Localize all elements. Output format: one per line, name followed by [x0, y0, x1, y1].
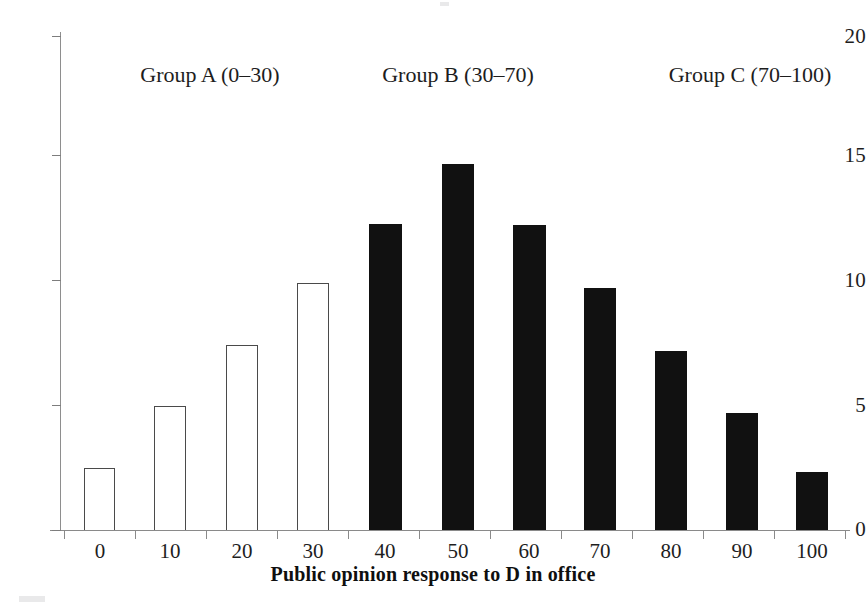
bar-80 — [655, 351, 687, 530]
x-axis-tick — [348, 531, 349, 539]
bar-70 — [584, 288, 616, 530]
x-axis-label-50: 50 — [428, 540, 488, 563]
y-axis-tick — [52, 36, 61, 37]
y-axis-line — [60, 32, 61, 531]
x-axis-title: Public opinion response to D in office — [0, 562, 866, 586]
scan-artifact — [440, 2, 449, 6]
y-axis-label-15: 15 — [822, 145, 866, 166]
x-axis-tick — [845, 531, 846, 539]
x-axis-tick — [419, 531, 420, 539]
x-axis-label-40: 40 — [355, 540, 415, 563]
bar-40 — [369, 224, 402, 530]
x-axis-label-20: 20 — [212, 540, 272, 563]
bar-30 — [297, 283, 329, 530]
bar-0 — [84, 468, 115, 530]
x-axis-label-60: 60 — [499, 540, 559, 563]
bar-10 — [154, 406, 186, 530]
y-axis-tick — [52, 405, 61, 406]
y-axis-tick — [52, 530, 61, 531]
x-axis-tick — [561, 531, 562, 539]
x-axis-label-90: 90 — [712, 540, 772, 563]
x-axis-label-70: 70 — [570, 540, 630, 563]
x-axis-tick — [632, 531, 633, 539]
x-axis-tick — [490, 531, 491, 539]
bar-90 — [726, 413, 758, 530]
x-axis-label-100: 100 — [782, 540, 842, 563]
x-axis-tick — [703, 531, 704, 539]
x-axis-tick — [206, 531, 207, 539]
y-axis-label-0: 0 — [822, 519, 866, 540]
y-axis-tick — [52, 155, 61, 156]
x-axis-line — [50, 530, 850, 531]
x-axis-tick — [135, 531, 136, 539]
bar-60 — [513, 225, 546, 530]
bar-50 — [442, 164, 474, 530]
y-axis-label-20: 20 — [822, 26, 866, 47]
bar-chart: 20 15 10 5 0 0 10 20 30 40 50 60 70 80 9… — [0, 0, 866, 607]
bar-20 — [226, 345, 258, 530]
y-axis-label-5: 5 — [822, 395, 866, 416]
x-axis-tick — [774, 531, 775, 539]
x-axis-tick — [64, 531, 65, 539]
group-label-b: Group B (30–70) — [348, 62, 568, 88]
x-axis-label-30: 30 — [283, 540, 343, 563]
bar-100 — [796, 472, 828, 530]
x-axis-label-10: 10 — [140, 540, 200, 563]
x-axis-label-0: 0 — [70, 540, 130, 563]
scan-artifact — [19, 596, 45, 602]
group-label-a: Group A (0–30) — [100, 62, 320, 88]
y-axis-tick — [52, 280, 61, 281]
x-axis-label-80: 80 — [641, 540, 701, 563]
y-axis-label-10: 10 — [822, 270, 866, 291]
group-label-c: Group C (70–100) — [630, 62, 866, 88]
x-axis-tick — [277, 531, 278, 539]
